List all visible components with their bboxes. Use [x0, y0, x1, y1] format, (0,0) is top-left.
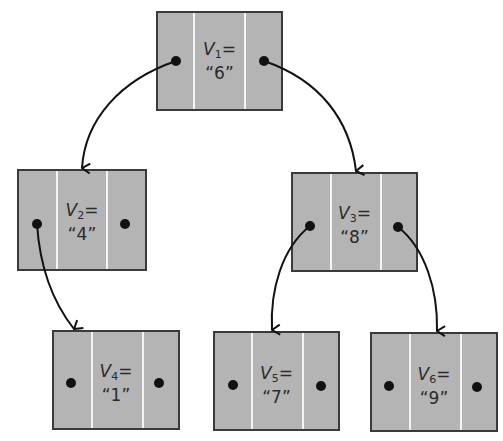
- left-pointer-dot: [384, 381, 394, 391]
- left-pointer-dot: [66, 378, 76, 388]
- node-value: “4”: [68, 224, 96, 244]
- node-value: “8”: [340, 227, 368, 247]
- node-value: “7”: [262, 387, 290, 407]
- left-pointer-dot: [171, 56, 181, 66]
- right-pointer-dot: [120, 219, 130, 229]
- left-pointer-dot: [305, 221, 315, 231]
- right-pointer-dot: [393, 222, 403, 232]
- node-value: “6”: [205, 63, 233, 83]
- node-value: “1”: [102, 385, 130, 405]
- right-pointer-dot: [259, 56, 269, 66]
- left-pointer-dot: [228, 380, 238, 390]
- node-value: “9”: [420, 388, 448, 408]
- tree-diagram: V1= “6” V2= “4” V3= “8” V4= “1”: [0, 0, 503, 441]
- right-pointer-dot: [472, 382, 482, 392]
- right-pointer-dot: [316, 381, 326, 391]
- left-pointer-dot: [32, 219, 42, 229]
- right-pointer-dot: [154, 378, 164, 388]
